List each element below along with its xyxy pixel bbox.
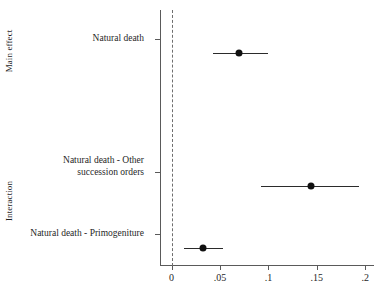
zero-reference-line	[172, 10, 173, 266]
y-category-label-natural-death-line1: Natural death	[0, 33, 144, 45]
x-axis-tick-label: .1	[265, 272, 273, 283]
axis-group-label-main-effect: Main effect	[0, 14, 18, 88]
plot-area: 0.05.1.15.2	[160, 10, 374, 266]
y-category-label-other-succession-line1: Natural death - Other	[0, 155, 144, 167]
y-category-label-primogeniture-line1: Natural death - Primogeniture	[0, 228, 144, 240]
x-axis-line	[160, 265, 374, 266]
y-category-label-primogeniture: Natural death - Primogeniture	[0, 228, 152, 240]
x-axis-tick	[220, 266, 221, 270]
y-category-label-other-succession-line2: succession orders	[0, 167, 144, 179]
x-axis-tick-label: .05	[214, 272, 227, 283]
y-axis-tick-other-succession	[155, 172, 160, 173]
coefficient-plot-figure: Main effect Interaction Natural death Na…	[0, 0, 382, 301]
x-axis-tick-label: 0	[169, 272, 174, 283]
y-category-label-natural-death: Natural death	[0, 33, 152, 45]
x-axis-tick	[365, 266, 366, 270]
estimate-point	[236, 50, 243, 57]
estimate-point	[308, 183, 315, 190]
y-category-label-other-succession: Natural death - Other succession orders	[0, 155, 152, 178]
axis-group-label-interaction-text: Interaction	[4, 181, 14, 221]
y-axis-tick-primogeniture	[155, 234, 160, 235]
estimate-point	[199, 245, 206, 252]
y-axis-line	[160, 10, 161, 266]
x-axis-tick	[317, 266, 318, 270]
x-axis-tick-label: .2	[362, 272, 370, 283]
x-axis-tick	[172, 266, 173, 270]
y-axis-tick-natural-death	[155, 39, 160, 40]
x-axis-tick	[268, 266, 269, 270]
x-axis-tick-label: .15	[311, 272, 324, 283]
